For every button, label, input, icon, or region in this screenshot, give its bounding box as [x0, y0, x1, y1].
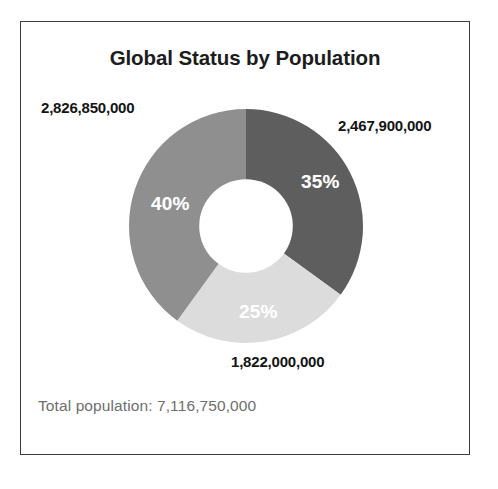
donut-center-hole	[199, 179, 293, 273]
slice-value-label-top-left: 2,826,850,000	[41, 99, 134, 116]
chart-title: Global Status by Population	[21, 46, 469, 70]
chart-card: Global Status by Population 35% 25% 40% …	[20, 21, 470, 455]
donut-chart: 35% 25% 40%	[129, 109, 363, 343]
slice-percent-label-25: 25%	[239, 301, 278, 323]
slice-value-label-bottom: 1,822,000,000	[231, 353, 324, 370]
slice-percent-label-40: 40%	[151, 193, 190, 215]
slice-value-label-top-right: 2,467,900,000	[338, 117, 431, 134]
total-population-footer: Total population: 7,116,750,000	[38, 397, 256, 415]
slice-percent-label-35: 35%	[301, 171, 340, 193]
